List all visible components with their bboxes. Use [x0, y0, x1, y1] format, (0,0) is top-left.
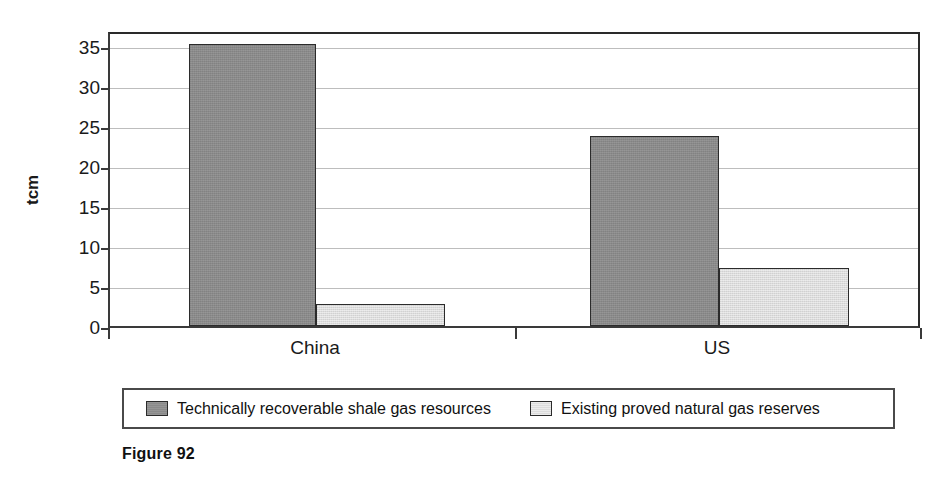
plot-area	[108, 32, 920, 328]
y-tick-label: 15	[56, 198, 100, 217]
figure-caption: Figure 92	[122, 444, 195, 464]
y-tick-label: 30	[56, 78, 100, 97]
y-tick-mark	[101, 168, 110, 170]
x-axis-tick	[108, 328, 110, 339]
x-tick-label-china: China	[215, 337, 415, 359]
light-gray-swatch-icon	[530, 401, 552, 416]
x-axis-tick	[920, 328, 922, 339]
y-tick-mark	[101, 48, 110, 50]
y-tick-label: 25	[56, 118, 100, 137]
y-tick-mark	[101, 248, 110, 250]
chart-legend: Technically recoverable shale gas resour…	[122, 388, 895, 429]
y-axis-title: tcm	[18, 150, 48, 230]
y-tick-mark	[101, 208, 110, 210]
dark-gray-swatch-icon	[146, 401, 168, 416]
y-tick-label: 0	[56, 318, 100, 337]
y-tick-mark	[101, 128, 110, 130]
bar-us-series-1	[590, 136, 719, 326]
y-tick-mark	[101, 288, 110, 290]
legend-label-shale-resources: Technically recoverable shale gas resour…	[177, 400, 491, 418]
legend-entry-shale-resources: Technically recoverable shale gas resour…	[146, 400, 491, 418]
x-tick-label-us: US	[617, 337, 817, 359]
bar-china-series-2	[316, 304, 445, 326]
x-axis-tick	[515, 328, 517, 339]
bar-china-series-1	[189, 44, 316, 326]
bar-us-series-2	[719, 268, 849, 326]
y-tick-mark	[101, 88, 110, 90]
legend-entry-proved-reserves: Existing proved natural gas reserves	[530, 400, 820, 418]
y-tick-label: 5	[56, 278, 100, 297]
y-tick-label: 10	[56, 238, 100, 257]
figure-92-bar-chart: tcm 35302520151050 ChinaUS Technically r…	[0, 0, 946, 477]
legend-label-proved-reserves: Existing proved natural gas reserves	[561, 400, 820, 418]
y-tick-label: 20	[56, 158, 100, 177]
y-tick-label: 35	[56, 38, 100, 57]
